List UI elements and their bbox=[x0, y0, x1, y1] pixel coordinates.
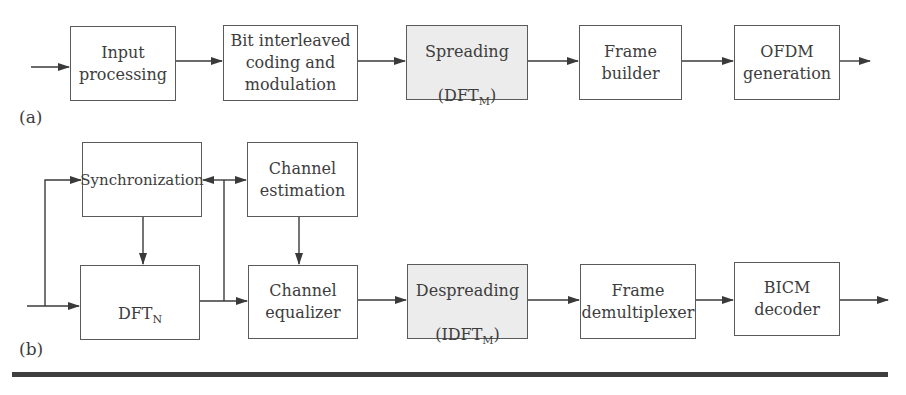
block-label: Channel estimation bbox=[260, 158, 345, 202]
block-sublabel-prefix: (DFT bbox=[438, 86, 479, 105]
block-label: Bit interleaved coding and modulation bbox=[230, 30, 350, 96]
block-frame-demultiplexer: Frame demultiplexer bbox=[580, 264, 696, 339]
block-label: Synchronization bbox=[80, 169, 204, 191]
panel-label-b: (b) bbox=[19, 339, 43, 359]
block-label: Despreading bbox=[416, 281, 519, 300]
block-diagram: Input processing Bit interleaved coding … bbox=[0, 0, 906, 395]
block-label: DFT bbox=[118, 304, 153, 323]
arrow-input-to-sync bbox=[45, 180, 81, 306]
block-ofdm-generation: OFDM generation bbox=[734, 25, 840, 100]
block-input-processing: Input processing bbox=[70, 26, 176, 101]
block-label-group: DFTN bbox=[118, 281, 162, 325]
block-label: Frame builder bbox=[601, 41, 659, 85]
block-label-group: Spreading (DFTM) bbox=[425, 19, 509, 107]
block-bit-interleaved-coding: Bit interleaved coding and modulation bbox=[223, 25, 358, 101]
block-label-group: Despreading (IDFTM) bbox=[416, 258, 519, 346]
panel-label-a: (a) bbox=[19, 107, 42, 127]
block-synchronization: Synchronization bbox=[82, 142, 202, 217]
block-spreading: Spreading (DFTM) bbox=[406, 25, 528, 100]
block-channel-equalizer: Channel equalizer bbox=[248, 265, 358, 339]
block-sublabel-suffix: ) bbox=[490, 86, 496, 105]
block-channel-estimation: Channel estimation bbox=[247, 142, 358, 217]
block-label: Channel equalizer bbox=[265, 280, 340, 324]
figure-bottom-rule bbox=[12, 372, 888, 377]
block-sublabel-prefix: (IDFT bbox=[435, 325, 482, 344]
block-frame-builder: Frame builder bbox=[579, 25, 682, 100]
subscript: M bbox=[479, 95, 490, 108]
block-label: Spreading bbox=[425, 42, 509, 61]
block-label: Input processing bbox=[79, 42, 167, 86]
block-bicm-decoder: BICM decoder bbox=[734, 262, 840, 336]
block-label: Frame demultiplexer bbox=[582, 280, 695, 324]
block-label: OFDM generation bbox=[743, 41, 831, 85]
block-sublabel-suffix: ) bbox=[494, 325, 500, 344]
block-label: BICM decoder bbox=[754, 277, 820, 321]
subscript: M bbox=[482, 334, 493, 347]
block-dft-n: DFTN bbox=[80, 265, 200, 340]
block-despreading: Despreading (IDFTM) bbox=[407, 264, 528, 339]
subscript: N bbox=[152, 313, 162, 326]
